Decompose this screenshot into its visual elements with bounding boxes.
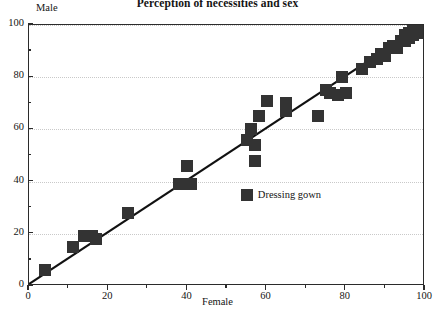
- gridline-y-100: [29, 25, 423, 26]
- y-minor-tick-50: [28, 154, 31, 155]
- y-tick-0: [28, 284, 33, 285]
- y-tick-40: [28, 180, 33, 181]
- y-minor-tick-70: [28, 102, 31, 103]
- y-ticklabel-40: 40: [14, 174, 25, 185]
- x-minor-tick-30: [146, 285, 147, 288]
- x-minor-tick-50: [225, 285, 226, 288]
- data-point: [122, 207, 134, 219]
- data-point: [67, 241, 79, 253]
- y-minor-tick-30: [28, 206, 31, 207]
- y-ticklabel-60: 60: [14, 121, 25, 132]
- data-point: [261, 95, 273, 107]
- y-ticklabel-100: 100: [8, 17, 24, 28]
- data-point: [245, 123, 257, 135]
- annotation-label: Dressing gown: [258, 189, 321, 200]
- data-point: [419, 24, 424, 31]
- y-minor-tick-10: [28, 258, 31, 259]
- y-axis-label: Male: [36, 2, 58, 13]
- y-tick-80: [28, 76, 33, 77]
- x-ticklabel-80: 80: [340, 290, 351, 301]
- y-tick-100: [28, 23, 33, 24]
- gridline-y-40: [29, 182, 423, 183]
- data-point: [340, 87, 352, 99]
- data-point: [90, 233, 102, 245]
- x-axis-label: Female: [0, 296, 435, 307]
- gridline-y-60: [29, 129, 423, 130]
- data-point: [249, 139, 261, 151]
- y-ticklabel-0: 0: [19, 278, 24, 289]
- x-ticklabel-20: 20: [102, 290, 113, 301]
- y-tick-60: [28, 128, 33, 129]
- data-point: [39, 264, 51, 276]
- data-point: [280, 97, 292, 109]
- plot-area: Dressing gown: [28, 24, 424, 285]
- data-point: [249, 155, 261, 167]
- x-ticklabel-40: 40: [181, 290, 192, 301]
- gridline-y-80: [29, 77, 423, 78]
- y-ticklabel-20: 20: [14, 226, 25, 237]
- x-ticklabel-0: 0: [25, 290, 30, 301]
- x-minor-tick-90: [384, 285, 385, 288]
- annotation-marker-icon: [241, 189, 253, 201]
- data-point: [253, 110, 265, 122]
- data-point: [336, 71, 348, 83]
- y-tick-20: [28, 232, 33, 233]
- y-ticklabel-80: 80: [14, 69, 25, 80]
- annotation-dressing-gown: Dressing gown: [241, 189, 321, 201]
- data-point: [312, 110, 324, 122]
- x-ticklabel-60: 60: [260, 290, 271, 301]
- x-minor-tick-70: [305, 285, 306, 288]
- chart-figure: Perception of necessities and sex Male F…: [0, 0, 435, 314]
- data-point: [173, 178, 185, 190]
- chart-title: Perception of necessities and sex: [0, 0, 435, 9]
- y-minor-tick-90: [28, 49, 31, 50]
- x-ticklabel-100: 100: [416, 290, 432, 301]
- data-point: [185, 178, 197, 190]
- x-minor-tick-10: [67, 285, 68, 288]
- data-point: [181, 160, 193, 172]
